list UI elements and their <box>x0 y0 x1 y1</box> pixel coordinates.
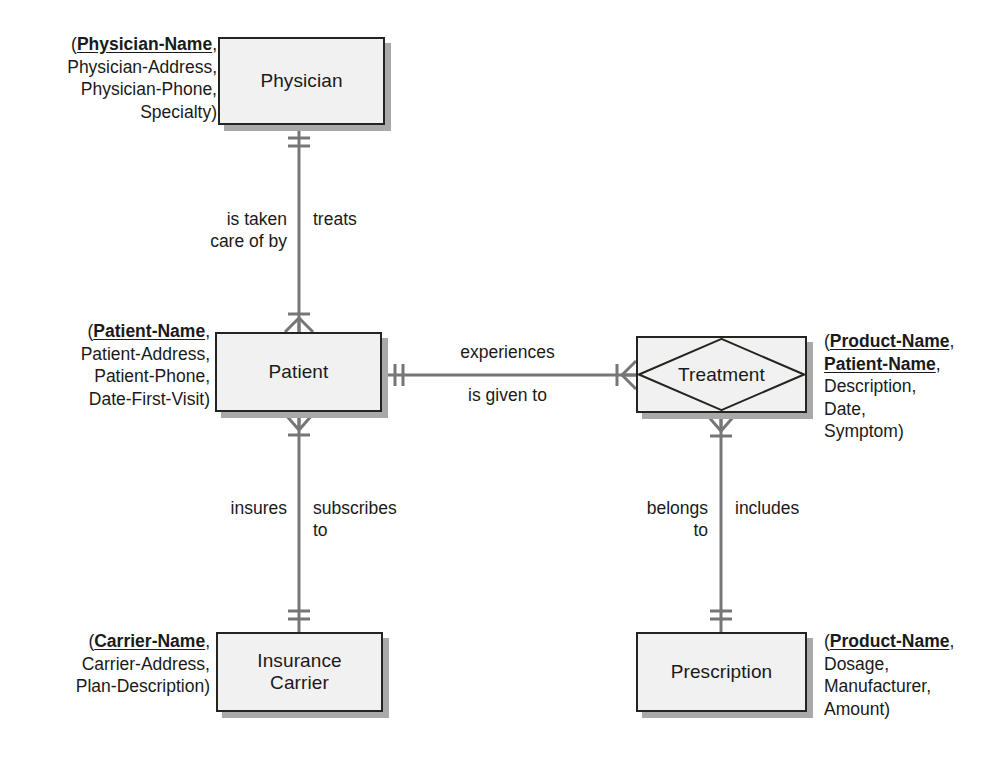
key-attribute-physician: Physician-Name <box>77 34 212 54</box>
attributes-treatment-sep1: , <box>949 331 954 351</box>
entity-patient-label: Patient <box>269 361 329 383</box>
label-subscribes-to: subscribes to <box>313 497 463 541</box>
crowsfoot-treatment-bottom <box>707 415 735 431</box>
key-attribute-treatment-patient: Patient-Name <box>824 354 936 374</box>
label-is-given-to: is given to <box>410 384 605 406</box>
label-includes: includes <box>735 497 885 519</box>
label-experiences: experiences <box>410 341 605 363</box>
entity-patient[interactable]: Patient <box>215 332 382 412</box>
er-diagram-canvas: Physician (Physician-Name, Physician-Add… <box>0 0 1004 760</box>
entity-treatment[interactable]: Treatment <box>636 336 807 413</box>
attributes-prescription: (Product-Name, Dosage, Manufacturer, Amo… <box>824 630 1004 720</box>
attributes-treatment: (Product-Name, Patient-Name, Description… <box>824 330 1004 443</box>
entity-physician[interactable]: Physician <box>218 37 385 125</box>
entity-prescription-label: Prescription <box>671 661 773 683</box>
key-attribute-prescription: Product-Name <box>830 631 950 651</box>
attributes-physician: (Physician-Name, Physician-Address, Phys… <box>52 33 217 123</box>
crowsfoot-patient-bottom <box>285 414 313 430</box>
label-insures: insures <box>137 497 287 519</box>
key-attribute-treatment-product: Product-Name <box>830 331 950 351</box>
key-attribute-insurance-carrier: Carrier-Name <box>94 631 205 651</box>
attributes-patient: (Patient-Name, Patient-Address, Patient-… <box>50 320 210 410</box>
crowsfoot-treatment-left <box>622 361 636 389</box>
label-belongs-to: belongs to <box>560 497 708 541</box>
entity-treatment-label: Treatment <box>678 364 765 386</box>
crowsfoot-patient-top <box>285 318 313 332</box>
entity-physician-label: Physician <box>260 70 342 92</box>
key-attribute-patient: Patient-Name <box>93 321 205 341</box>
label-is-taken-care-of-by: is taken care of by <box>132 208 287 252</box>
entity-prescription[interactable]: Prescription <box>636 632 807 712</box>
entity-insurance-carrier[interactable]: Insurance Carrier <box>216 632 383 712</box>
label-treats: treats <box>313 208 463 230</box>
attributes-insurance-carrier: (Carrier-Name, Carrier-Address, Plan-Des… <box>50 630 210 698</box>
entity-insurance-carrier-label: Insurance Carrier <box>257 650 341 694</box>
